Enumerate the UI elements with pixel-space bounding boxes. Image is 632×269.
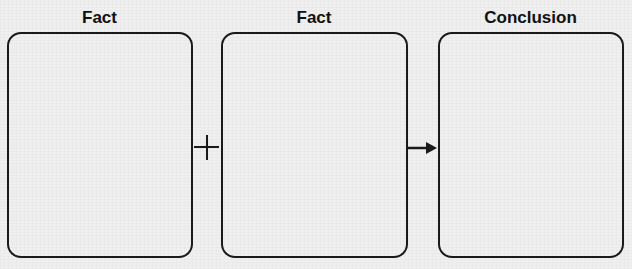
conclusion-box [438, 32, 624, 258]
fact-2-heading: Fact [221, 6, 407, 30]
fact-2-box [221, 32, 408, 258]
plus-icon [194, 135, 219, 160]
fact-1-box [7, 32, 193, 258]
arrow-right-icon [408, 141, 438, 155]
fact-1-heading: Fact [7, 6, 192, 30]
conclusion-heading: Conclusion [438, 6, 623, 30]
